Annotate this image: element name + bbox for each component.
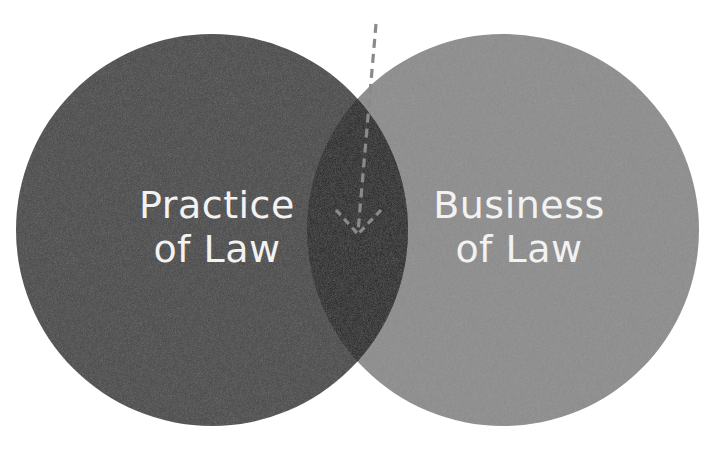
practice-of-law-line1: Practice: [117, 183, 317, 227]
business-of-law-label: Business of Law: [419, 183, 619, 271]
venn-diagram: Practice of Law Business of Law: [0, 0, 712, 452]
business-of-law-line2: of Law: [419, 227, 619, 271]
practice-of-law-line2: of Law: [117, 227, 317, 271]
practice-of-law-label: Practice of Law: [117, 183, 317, 271]
business-of-law-line1: Business: [419, 183, 619, 227]
